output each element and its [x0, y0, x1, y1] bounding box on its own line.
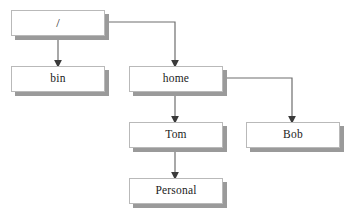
node-bin[interactable]: bin	[11, 66, 105, 92]
edge-home-bob	[223, 78, 292, 117]
node-bob-label: Bob	[283, 129, 303, 141]
node-home[interactable]: home	[129, 66, 223, 92]
node-tom-label: Tom	[165, 129, 187, 141]
edge-root-home	[105, 22, 175, 61]
node-tom[interactable]: Tom	[129, 122, 223, 148]
node-root[interactable]: /	[11, 10, 105, 36]
node-home-label: home	[163, 73, 189, 85]
node-personal[interactable]: Personal	[129, 178, 223, 204]
node-bob[interactable]: Bob	[246, 122, 340, 148]
node-root-label: /	[56, 17, 60, 30]
node-bin-label: bin	[50, 73, 65, 85]
directory-tree-diagram: / bin home Tom Bob Personal	[0, 0, 351, 212]
node-personal-label: Personal	[155, 185, 196, 197]
